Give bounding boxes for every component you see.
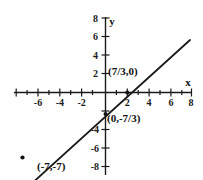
x-intercept-label: (7/3,0) <box>108 65 138 78</box>
x-tick-label: 6 <box>168 97 173 108</box>
graph-svg: -6 -4 -2 2 4 6 8 8 6 4 2 -4 -6 -8 x y (7… <box>0 0 203 180</box>
x-tick-label: -4 <box>56 97 64 108</box>
x-axis-label: x <box>185 76 191 88</box>
plot-line <box>13 40 190 180</box>
x-tick-label: 8 <box>189 97 194 108</box>
coordinate-plane-figure: -6 -4 -2 2 4 6 8 8 6 4 2 -4 -6 -8 x y (7… <box>0 0 203 180</box>
y-intercept-label: (0,-7/3) <box>107 112 141 125</box>
x-tick-label: 4 <box>147 97 152 108</box>
point-marker-x-intercept <box>125 91 129 95</box>
x-tick-label: -6 <box>34 97 42 108</box>
x-tick-label: -2 <box>77 97 85 108</box>
y-tick-label: -8 <box>91 161 99 172</box>
y-tick-label: 2 <box>93 68 98 79</box>
third-point-label: (-7,-7) <box>37 160 66 173</box>
y-tick-label: 6 <box>93 31 98 42</box>
y-tick-label: -6 <box>91 143 99 154</box>
y-tick-label: 4 <box>93 50 98 61</box>
y-axis-label: y <box>109 15 115 27</box>
y-tick-label: 8 <box>93 13 98 24</box>
x-tick-labels: -6 -4 -2 2 4 6 8 <box>34 97 194 108</box>
point-marker-third <box>20 155 24 159</box>
